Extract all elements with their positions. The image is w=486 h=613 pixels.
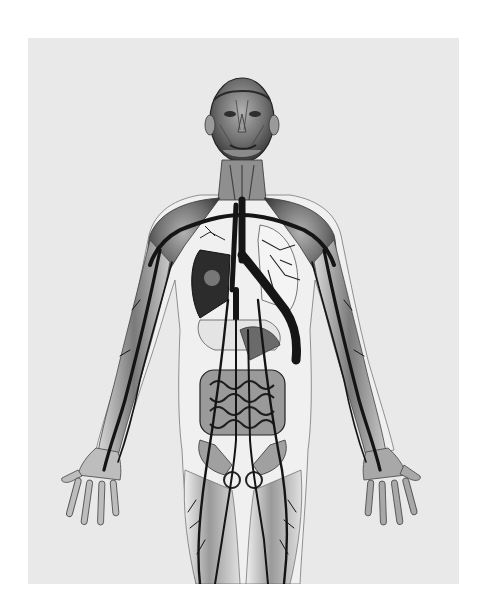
left-hand — [62, 448, 121, 525]
head — [205, 78, 279, 162]
left-arm — [98, 240, 170, 456]
neck — [218, 160, 266, 200]
circulatory-system-illustration — [28, 38, 459, 584]
illustration-frame — [28, 38, 459, 584]
right-arm — [314, 240, 386, 456]
right-hand — [363, 448, 420, 525]
